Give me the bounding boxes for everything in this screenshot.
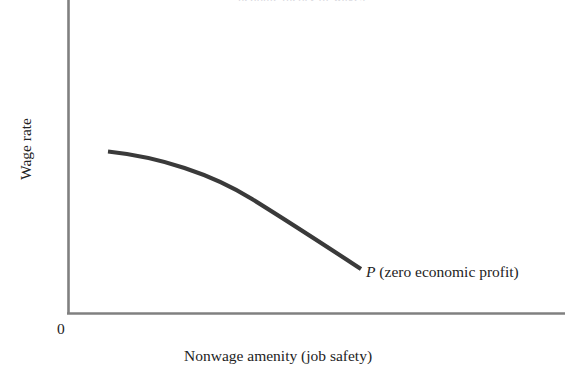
y-axis-label: Wage rate [17,99,35,199]
hedonic-wage-isoprofit-figure: hedonic theory of wages Wage rate 0 Nonw… [0,0,581,385]
x-axis-label: Nonwage amenity (job safety) [184,347,372,365]
curve-endpoint-description: (zero economic profit) [375,263,518,280]
origin-label: 0 [57,320,65,338]
zero-economic-profit-curve [108,152,361,270]
curve-endpoint-annotation: P (zero economic profit) [366,263,519,281]
plot-canvas [0,0,581,385]
